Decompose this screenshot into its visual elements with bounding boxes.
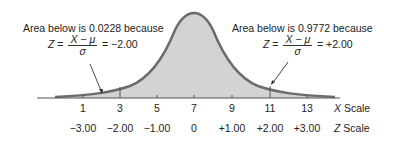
x-tick-label: 5 — [154, 102, 160, 114]
z-tick-label: −2.00 — [107, 122, 134, 134]
z-tick-label: −3.00 — [70, 122, 97, 134]
z-result: = −2.00 — [102, 38, 138, 50]
z-tick-label: 0 — [191, 122, 197, 134]
z-scale-label: Z Scale — [334, 122, 370, 134]
z-symbol: Z — [48, 38, 54, 50]
equals-sign: = — [57, 38, 63, 50]
pointer-right — [272, 62, 288, 84]
equals-sign: = — [272, 38, 278, 50]
z-tick-label: +1.00 — [219, 122, 246, 134]
x-scale-label: X Scale — [334, 102, 370, 114]
denominator: σ — [68, 46, 97, 57]
x-tick-label: 1 — [80, 102, 86, 114]
denominator: σ — [283, 46, 312, 57]
fraction: X − μ σ — [68, 34, 97, 57]
fraction: X − μ σ — [283, 34, 312, 57]
x-tick-label: 3 — [117, 102, 123, 114]
pointer-left — [90, 64, 102, 93]
right-z-equation: Z = X − μ σ = +2.00 — [263, 34, 353, 57]
z-tick-label: −1.00 — [144, 122, 171, 134]
z-tick-label: +3.00 — [294, 122, 321, 134]
left-z-equation: Z = X − μ σ = −2.00 — [48, 34, 138, 57]
x-tick-label: 13 — [301, 102, 313, 114]
z-symbol: Z — [263, 38, 269, 50]
z-tick-label: +2.00 — [257, 122, 284, 134]
x-tick-label: 7 — [191, 102, 197, 114]
z-result: = +2.00 — [317, 38, 353, 50]
x-tick-label: 11 — [265, 102, 276, 114]
x-tick-label: 9 — [229, 102, 235, 114]
